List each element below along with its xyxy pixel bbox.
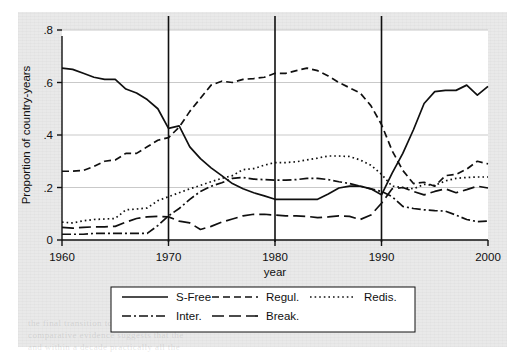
legend-label-s-free: S-Free <box>176 291 211 303</box>
x-tick-label: 1960 <box>49 251 75 263</box>
y-tick-label: .8 <box>43 24 53 36</box>
line-chart: 19601970198019902000 0.2.4.6.8 year Prop… <box>0 0 525 359</box>
y-tick-label: .6 <box>43 77 53 89</box>
page-canvas: the final transition to the new regime w… <box>0 0 525 359</box>
x-tick-label: 1980 <box>262 251 288 263</box>
y-axis-title: Proportion of country-years <box>20 65 32 204</box>
x-tick-label: 1990 <box>369 251 395 263</box>
y-tick-label: .2 <box>43 182 53 194</box>
y-axis-ticks: 0.2.4.6.8 <box>43 24 62 246</box>
x-axis-ticks: 19601970198019902000 <box>49 240 501 263</box>
chart-legend: S-FreeRegul.Redis.Inter.Break. <box>111 287 415 332</box>
legend-label-inter: Inter. <box>176 310 202 322</box>
y-tick-label: .4 <box>43 129 53 141</box>
x-tick-label: 1970 <box>156 251 182 263</box>
legend-label-redis: Redis. <box>364 291 397 303</box>
x-axis-title: year <box>264 266 287 278</box>
chart-figure: 19601970198019902000 0.2.4.6.8 year Prop… <box>0 0 525 359</box>
legend-label-regul: Regul. <box>266 291 299 303</box>
legend-label-break: Break. <box>266 310 299 322</box>
y-tick-label: 0 <box>47 234 53 246</box>
x-tick-label: 2000 <box>475 251 501 263</box>
